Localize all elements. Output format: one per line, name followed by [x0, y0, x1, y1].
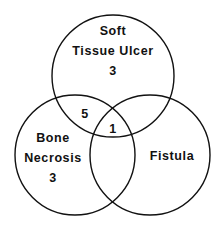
soft-tissue-ulcer-only-count: 3 — [109, 64, 117, 78]
soft-tissue-ulcer-label-line2: Tissue Ulcer — [72, 44, 153, 58]
soft-tissue-ulcer-label-line1: Soft — [100, 24, 127, 38]
bone-necrosis-label-line2: Necrosis — [24, 151, 82, 165]
venn-diagram: Soft Tissue Ulcer 3 5 1 Bone Necrosis 3 … — [0, 0, 224, 229]
bone-necrosis-only-count: 3 — [49, 171, 57, 185]
all-three-count: 1 — [109, 122, 117, 136]
ulcer-necrosis-count: 5 — [81, 107, 89, 121]
fistula-label: Fistula — [150, 149, 195, 163]
bone-necrosis-label-line1: Bone — [36, 131, 70, 145]
